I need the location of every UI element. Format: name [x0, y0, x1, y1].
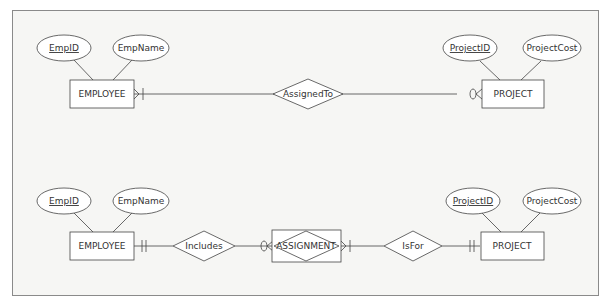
- top-attr-empname: EmpName: [113, 35, 169, 61]
- top-attr-projectid: ProjectID: [443, 35, 497, 61]
- bottom-attr-empname-label: EmpName: [118, 196, 165, 206]
- bottom-attr-projectcost-label: ProjectCost: [527, 196, 578, 206]
- top-relationship-label: AssignedTo: [283, 89, 334, 99]
- bottom-relationship-includes-label: Includes: [185, 241, 223, 251]
- top-relationship-assignedto: AssignedTo: [273, 79, 343, 109]
- top-entity-project-label: PROJECT: [494, 89, 533, 99]
- bottom-entity-project-label: PROJECT: [493, 241, 532, 251]
- top-attr-projectcost: ProjectCost: [523, 35, 581, 61]
- bottom-attr-projectcost: ProjectCost: [523, 188, 581, 214]
- top-entity-employee-label: EMPLOYEE: [78, 89, 125, 99]
- bottom-relationship-isfor-label: IsFor: [402, 241, 424, 251]
- bottom-entity-project: PROJECT: [481, 232, 544, 260]
- bottom-attr-projectid-label: ProjectID: [453, 196, 493, 206]
- bottom-entity-employee-label: EMPLOYEE: [78, 241, 125, 251]
- bottom-attr-empname: EmpName: [113, 188, 169, 214]
- bottom-associative-entity-assignment: ASSIGNMENT: [272, 230, 341, 262]
- bottom-associative-entity-label: ASSIGNMENT: [276, 241, 336, 251]
- top-attr-empid-label: EmpID: [49, 43, 79, 53]
- top-entity-employee: EMPLOYEE: [70, 80, 134, 108]
- bottom-relationship-includes: Includes: [173, 231, 235, 261]
- top-entity-project: PROJECT: [482, 80, 544, 108]
- top-attr-empid: EmpID: [37, 35, 91, 61]
- bottom-relationship-isfor: IsFor: [384, 231, 442, 261]
- top-attr-projectid-label: ProjectID: [450, 43, 490, 53]
- bottom-entity-employee: EMPLOYEE: [70, 232, 134, 260]
- bottom-attr-empid-label: EmpID: [49, 196, 79, 206]
- top-attr-projectcost-label: ProjectCost: [527, 43, 578, 53]
- er-diagram: EmpID EmpName EMPLOYEE AssignedTo Projec…: [0, 0, 609, 300]
- bottom-attr-empid: EmpID: [37, 188, 91, 214]
- bottom-attr-projectid: ProjectID: [446, 188, 500, 214]
- top-attr-empname-label: EmpName: [118, 43, 165, 53]
